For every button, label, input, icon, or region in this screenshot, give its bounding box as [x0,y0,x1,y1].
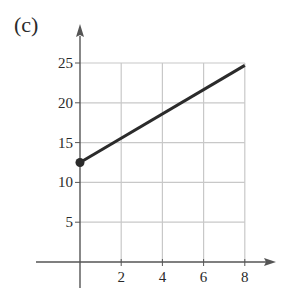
start-point-dot-icon [76,158,85,167]
y-tick-label: 15 [58,135,73,151]
y-axis-arrow-icon [76,24,84,37]
grid-lines [80,63,245,262]
tick-labels: 2468510152025 [58,55,249,285]
data-series [76,65,245,167]
line-chart: 2468510152025 [0,0,283,297]
y-tick-label: 20 [58,95,73,111]
x-tick-label: 2 [117,269,125,285]
x-tick-label: 4 [159,269,167,285]
x-tick-label: 6 [200,269,208,285]
y-tick-label: 10 [58,174,73,190]
y-tick-label: 25 [58,55,73,71]
y-tick-label: 5 [66,214,74,230]
x-tick-label: 8 [241,269,249,285]
